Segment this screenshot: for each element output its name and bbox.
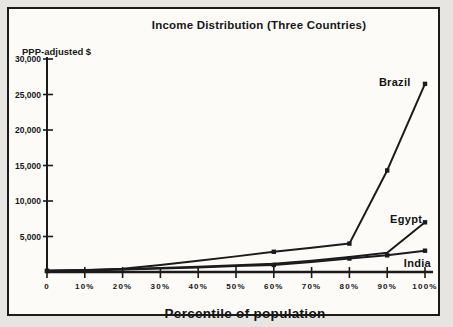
series-marker-india — [272, 263, 276, 267]
series-marker-egypt — [423, 220, 427, 224]
series-marker-brazil — [347, 241, 351, 245]
series-marker-brazil — [385, 168, 389, 172]
series-marker-india — [423, 249, 427, 253]
series-marker-india — [385, 253, 389, 257]
series-line-egypt — [47, 222, 425, 270]
y-tick-label: 20,000 — [15, 125, 41, 135]
series-marker-india — [45, 269, 49, 273]
x-tick-label: 70% — [302, 282, 322, 291]
series-marker-india — [347, 256, 351, 260]
series-marker-brazil — [423, 82, 427, 86]
x-tick-label: 60% — [264, 282, 284, 291]
y-tick-label: 5,000 — [20, 232, 42, 242]
x-tick-label: 30% — [151, 282, 171, 291]
y-tick-label: 15,000 — [15, 161, 41, 171]
x-tick-label: 0 — [44, 282, 50, 291]
series-label-brazil: Brazil — [379, 76, 411, 88]
y-tick-label: 10,000 — [15, 196, 41, 206]
x-tick-label: 80% — [340, 282, 360, 291]
y-tick-label: 25,000 — [15, 90, 41, 100]
x-tick-label: 20% — [113, 282, 133, 291]
y-tick-label: 30,000 — [15, 54, 41, 64]
series-label-egypt: Egypt — [390, 213, 422, 225]
series-marker-brazil — [272, 250, 276, 254]
line-chart: 5,00010,00015,00020,00025,00030,000010%2… — [0, 0, 453, 327]
scanned-chart-page: { "page": { "title": "Income Distributio… — [0, 0, 453, 327]
x-tick-label: 90% — [377, 282, 397, 291]
x-tick-label: 10% — [75, 282, 95, 291]
x-tick-label: 100% — [412, 282, 437, 291]
series-line-brazil — [47, 84, 425, 271]
x-tick-label: 40% — [188, 282, 208, 291]
x-tick-label: 50% — [226, 282, 246, 291]
series-label-india: India — [404, 257, 432, 269]
